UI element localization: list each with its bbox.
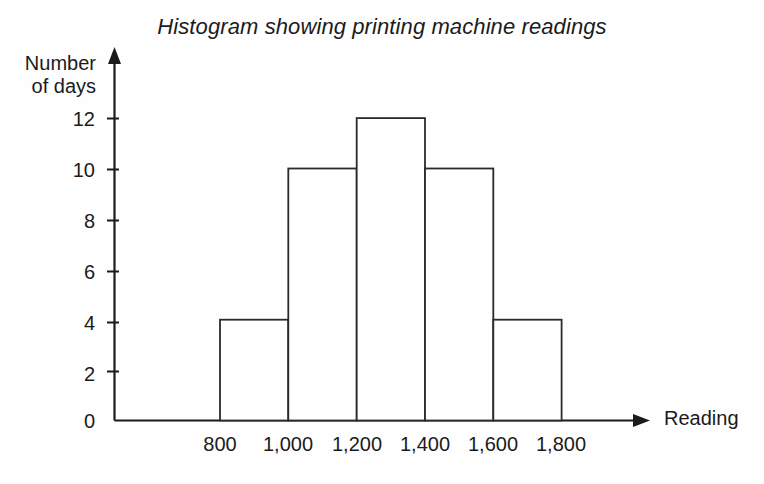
histogram-figure: Histogram showing printing machine readi… — [0, 0, 764, 484]
histogram-bars — [220, 118, 562, 420]
up-arrow-icon — [108, 47, 121, 64]
plot-area — [0, 0, 764, 484]
y-axis — [108, 47, 121, 421]
histogram-bar — [288, 169, 356, 421]
histogram-bar — [425, 169, 493, 421]
histogram-bar — [493, 320, 561, 421]
y-tick-marks — [107, 119, 119, 372]
histogram-bar — [357, 118, 425, 420]
right-arrow-icon — [633, 414, 650, 427]
histogram-bar — [220, 320, 288, 421]
